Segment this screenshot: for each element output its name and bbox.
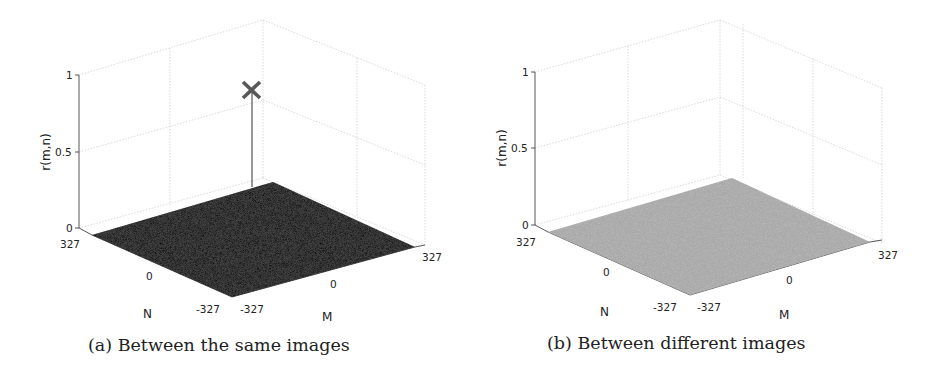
panel-b-ntick-0: 0 [603,266,610,278]
panel-b-surface [548,178,870,295]
panel-b-caption: (b) Between different images [547,333,806,353]
panel-a-ntick-327: 327 [60,238,80,250]
panel-a-ztick-1: 1 [66,69,73,81]
panel-a-ztick-0.5: 0.5 [55,146,72,158]
panel-a-ztick-0: 0 [66,222,73,234]
panel-b-ztick-0.5: 0.5 [511,142,528,154]
panel-a-mtick-0: 0 [330,278,337,290]
panel-a: 1 0.5 0 r(m,n) 327 0 -327 N -327 0 327 M… [39,20,442,355]
panel-b-ntick-neg327: -327 [653,301,677,313]
panel-a-xlabel-n: N [143,307,152,321]
panel-b-ylabel-m: M [779,308,789,322]
panel-b-ztick-1: 1 [522,66,529,78]
panel-a-caption: (a) Between the same images [88,335,350,355]
panel-a-mtick-327: 327 [422,251,442,263]
panel-b-zlabel: r(m,n) [495,129,509,166]
panel-b-ztick-0: 0 [522,219,529,231]
figure: 1 0.5 0 r(m,n) 327 0 -327 N -327 0 327 M… [0,0,925,382]
panel-a-surface [92,182,415,297]
panel-b-ntick-327: 327 [516,236,536,248]
panel-a-mtick-neg327: -327 [240,303,264,315]
panel-a-ntick-neg327: -327 [196,303,220,315]
panel-a-ntick-0: 0 [146,270,153,282]
panel-b-xlabel-n: N [600,305,609,319]
panel-a-zlabel: r(m,n) [39,133,53,170]
panel-a-ylabel-m: M [322,310,332,324]
panel-b-mtick-neg327: -327 [697,301,721,313]
panel-b: 1 0.5 0 r(m,n) 327 0 -327 N -327 0 327 M… [495,20,898,353]
panel-b-mtick-327: 327 [878,249,898,261]
panel-b-mtick-0: 0 [786,274,793,286]
